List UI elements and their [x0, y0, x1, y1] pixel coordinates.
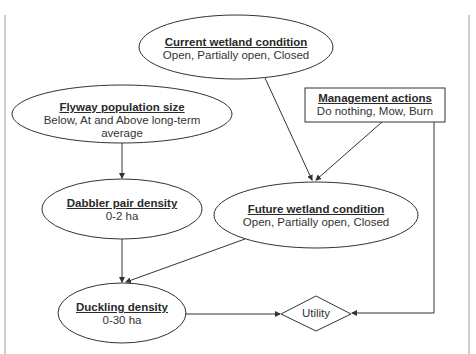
flyway-title: Flyway population size: [40, 101, 204, 114]
flyway-label: Flyway population size Below, At and Abo…: [40, 101, 204, 140]
future-wetland-subtitle: Open, Partially open, Closed: [226, 216, 406, 229]
utility-label: Utility: [286, 307, 346, 320]
flyway-subtitle: Below, At and Above long-term average: [40, 114, 204, 140]
duckling-subtitle: 0-30 ha: [62, 314, 182, 327]
dabbler-label: Dabbler pair density 0-2 ha: [52, 197, 192, 223]
duckling-title: Duckling density: [62, 301, 182, 314]
current-wetland-label: Current wetland condition Open, Partiall…: [146, 36, 326, 62]
future-wetland-label: Future wetland condition Open, Partially…: [226, 203, 406, 229]
management-label: Management actions Do nothing, Mow, Burn: [305, 92, 445, 118]
future-wetland-title: Future wetland condition: [226, 203, 406, 216]
current-wetland-subtitle: Open, Partially open, Closed: [146, 49, 326, 62]
dabbler-subtitle: 0-2 ha: [52, 210, 192, 223]
edge-future-to-duckling: [126, 239, 245, 282]
utility-text: Utility: [286, 307, 346, 320]
dabbler-title: Dabbler pair density: [52, 197, 192, 210]
edge-management-to-future: [316, 122, 382, 180]
current-wetland-title: Current wetland condition: [146, 36, 326, 49]
duckling-label: Duckling density 0-30 ha: [62, 301, 182, 327]
management-title: Management actions: [305, 92, 445, 105]
management-subtitle: Do nothing, Mow, Burn: [305, 105, 445, 118]
